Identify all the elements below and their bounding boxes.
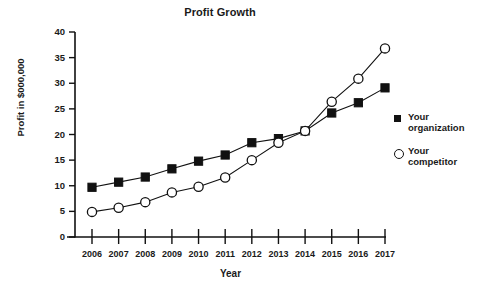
series-line-1 bbox=[92, 48, 385, 211]
data-point bbox=[327, 97, 336, 106]
legend-label-your-competitor: Yourcompetitor bbox=[408, 146, 457, 167]
data-point bbox=[248, 139, 256, 147]
data-point bbox=[114, 203, 123, 212]
data-point bbox=[221, 151, 229, 159]
x-axis-label: Year bbox=[75, 268, 386, 279]
data-point bbox=[300, 126, 309, 135]
legend-item-your-competitor[interactable]: Yourcompetitor bbox=[394, 146, 490, 167]
legend-item-your-organization[interactable]: Yourorganization bbox=[394, 112, 490, 133]
data-point bbox=[141, 198, 150, 207]
data-point bbox=[274, 138, 283, 147]
data-point bbox=[381, 84, 389, 92]
series-line-0 bbox=[92, 88, 385, 187]
open-circle-icon bbox=[394, 146, 408, 159]
data-point bbox=[167, 188, 176, 197]
chart-legend: Yourorganization Yourcompetitor bbox=[394, 112, 490, 180]
data-point bbox=[194, 157, 202, 165]
data-point bbox=[194, 182, 203, 191]
data-point bbox=[221, 173, 230, 182]
data-point bbox=[354, 99, 362, 107]
data-point bbox=[141, 173, 149, 181]
data-point bbox=[328, 109, 336, 117]
data-point bbox=[88, 183, 96, 191]
data-point bbox=[168, 165, 176, 173]
data-point bbox=[247, 156, 256, 165]
profit-growth-chart: Profit Growth Profit in $000,000 0510152… bbox=[0, 0, 490, 293]
data-point bbox=[380, 44, 389, 53]
filled-square-icon bbox=[394, 112, 408, 122]
legend-label-your-organization: Yourorganization bbox=[408, 112, 464, 133]
data-point bbox=[115, 178, 123, 186]
x-tick-label: 2017 bbox=[368, 249, 402, 259]
data-point bbox=[87, 207, 96, 216]
data-point bbox=[354, 74, 363, 83]
